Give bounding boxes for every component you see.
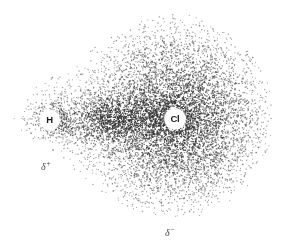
sign-glyph-positive: + bbox=[46, 159, 51, 168]
sign-glyph-negative: − bbox=[170, 225, 175, 234]
atom-label-chlorine: Cl bbox=[166, 110, 184, 127]
partial-negative-charge-label: δ− bbox=[165, 226, 175, 238]
delta-glyph-negative: δ bbox=[165, 227, 170, 238]
atom-label-hydrogen: H bbox=[41, 111, 58, 128]
partial-positive-charge-label: δ+ bbox=[41, 160, 51, 172]
hcl-electron-density-figure: H Cl δ+ δ− bbox=[0, 0, 286, 250]
delta-glyph-positive: δ bbox=[41, 161, 46, 172]
